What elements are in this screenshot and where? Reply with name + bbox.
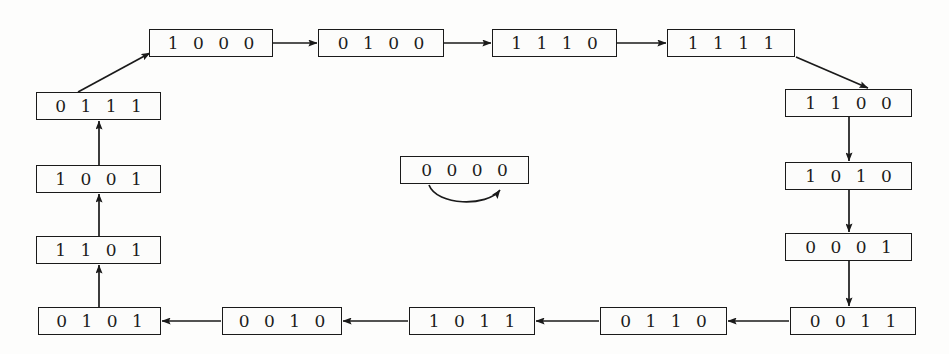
state-label: 1 1 0 1 — [51, 242, 146, 259]
state-node-0100[interactable]: 0 1 0 0 — [318, 29, 444, 57]
state-label: 0 0 0 0 — [417, 162, 512, 179]
edge-0000-self-loop — [429, 185, 500, 202]
state-label: 1 0 1 1 — [424, 313, 519, 330]
state-label: 1 1 0 0 — [801, 95, 896, 112]
state-label: 0 0 0 1 — [801, 239, 896, 256]
state-label: 0 1 0 0 — [333, 35, 428, 52]
edge-1111-to-1100 — [796, 57, 868, 88]
state-label: 1 1 1 0 — [507, 35, 602, 52]
state-node-1001[interactable]: 1 0 0 1 — [36, 165, 161, 193]
state-node-1110[interactable]: 1 1 1 0 — [492, 29, 617, 57]
state-node-0110[interactable]: 0 1 1 0 — [600, 307, 727, 335]
state-node-1010[interactable]: 1 0 1 0 — [785, 162, 912, 190]
state-label: 0 0 1 1 — [805, 313, 900, 330]
state-node-1100[interactable]: 1 1 0 0 — [785, 89, 912, 117]
state-label: 1 0 1 0 — [801, 168, 896, 185]
state-node-0000[interactable]: 0 0 0 0 — [400, 156, 529, 184]
state-label: 1 0 0 1 — [51, 171, 146, 188]
state-node-1011[interactable]: 1 0 1 1 — [409, 307, 535, 335]
state-node-0010[interactable]: 0 0 1 0 — [222, 307, 342, 335]
state-node-0101[interactable]: 0 1 0 1 — [38, 307, 161, 335]
state-node-0011[interactable]: 0 0 1 1 — [790, 307, 916, 335]
state-label: 1 1 1 1 — [683, 35, 778, 52]
state-label: 0 1 0 1 — [52, 313, 147, 330]
state-diagram-canvas: 1 0 0 0 0 1 0 0 1 1 1 0 1 1 1 1 0 1 1 1 … — [0, 0, 949, 354]
state-label: 0 1 1 1 — [51, 98, 146, 115]
state-node-0111[interactable]: 0 1 1 1 — [36, 92, 161, 120]
state-label: 1 0 0 0 — [163, 35, 258, 52]
state-node-1101[interactable]: 1 1 0 1 — [36, 236, 161, 264]
state-label: 0 0 1 0 — [234, 313, 329, 330]
state-label: 0 1 1 0 — [616, 313, 711, 330]
state-node-1000[interactable]: 1 0 0 0 — [149, 29, 273, 57]
state-node-1111[interactable]: 1 1 1 1 — [667, 29, 795, 57]
state-node-0001[interactable]: 0 0 0 1 — [785, 233, 912, 261]
edge-0111-to-1000 — [78, 53, 150, 92]
